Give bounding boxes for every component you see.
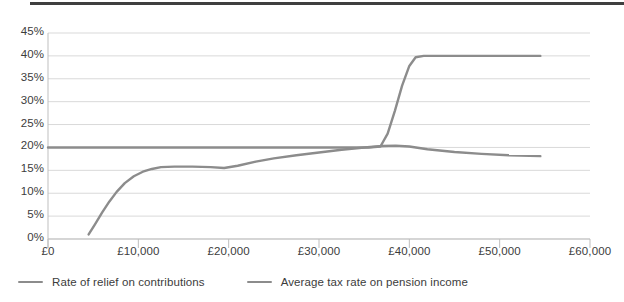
legend-entry: Average tax rate on pension income <box>247 276 468 288</box>
x-axis-tick-label: £50,000 <box>479 245 521 257</box>
legend-label: Rate of relief on contributions <box>52 276 205 288</box>
legend-label: Average tax rate on pension income <box>281 276 468 288</box>
y-axis-tick-label: 30% <box>0 94 44 106</box>
x-axis-tick-label: £0 <box>42 245 55 257</box>
x-axis-tick-label: £30,000 <box>298 245 340 257</box>
x-axis-tick-labels: £0£10,000£20,000£30,000£40,000£50,000£60… <box>0 245 624 267</box>
x-axis-tick-label: £20,000 <box>208 245 250 257</box>
x-axis-tick-label: £10,000 <box>117 245 159 257</box>
y-axis-tick-label: 20% <box>0 139 44 151</box>
series-lines <box>48 56 540 235</box>
y-axis-tick-label: 25% <box>0 117 44 129</box>
y-axis-tick-labels: 0%5%10%15%20%25%30%35%40%45% <box>0 0 44 250</box>
y-axis-tick-label: 40% <box>0 48 44 60</box>
y-axis-tick-label: 0% <box>0 231 44 243</box>
x-axis-tick-label: £60,000 <box>569 245 611 257</box>
chart-legend: Rate of relief on contributionsAverage t… <box>18 276 468 288</box>
y-axis-tick-label: 10% <box>0 185 44 197</box>
legend-entry: Rate of relief on contributions <box>18 276 205 288</box>
x-axis-tick-label: £40,000 <box>388 245 430 257</box>
legend-line-swatch-icon <box>18 281 43 284</box>
y-axis-tick-label: 5% <box>0 208 44 220</box>
gridlines <box>48 33 590 239</box>
y-axis-tick-label: 45% <box>0 25 44 37</box>
series-line <box>89 146 541 235</box>
legend-line-swatch-icon <box>247 281 272 284</box>
y-axis-tick-label: 35% <box>0 71 44 83</box>
line-chart: 0%5%10%15%20%25%30%35%40%45% £0£10,000£2… <box>0 0 624 302</box>
y-axis-tick-label: 15% <box>0 162 44 174</box>
